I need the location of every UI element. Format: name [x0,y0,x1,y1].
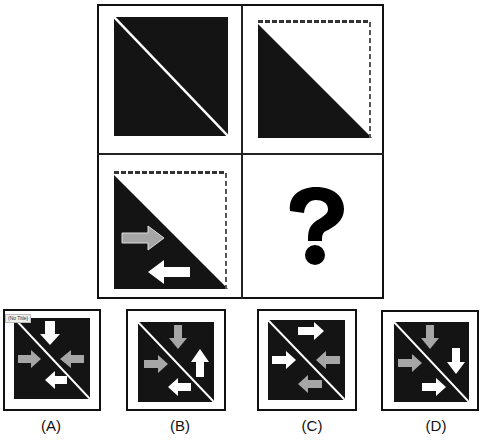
cell-1-figure [114,17,228,136]
grid-divider-horizontal [97,153,384,155]
option-c-label: (C) [292,417,332,434]
cell-2-figure [258,20,372,138]
cell-3-figure [114,171,228,289]
option-b-figure [138,322,214,402]
option-d-label: (D) [416,417,456,434]
question-mark-icon [282,185,348,267]
option-c-figure [268,320,345,400]
option-d-figure [394,322,469,402]
grid-divider-vertical [241,4,243,299]
option-a-label: (A) [31,417,71,434]
option-b-label: (B) [160,417,200,434]
option-a-figure [14,318,90,399]
tooltip: (No Title) [5,314,31,323]
